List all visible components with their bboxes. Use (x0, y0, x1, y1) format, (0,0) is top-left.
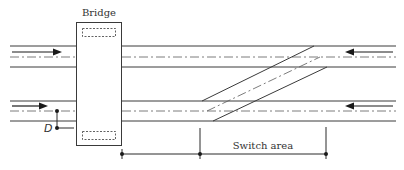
upper-arrow-right-icon (53, 49, 62, 56)
lower-track-right (122, 101, 396, 121)
bridge-box (77, 23, 122, 146)
dimension-dot-switch-start (198, 152, 202, 156)
d-marker: D (44, 109, 74, 135)
d-label: D (44, 122, 52, 135)
crossover-centerline (207, 57, 320, 111)
lower-track-left (10, 101, 76, 121)
upper-track-right (122, 46, 396, 67)
dimension-dot-switch-end (324, 152, 328, 156)
upper-track-left (10, 46, 76, 67)
d-marker-dot-bottom (55, 126, 59, 130)
switch-area-dimension: Switch area (120, 127, 328, 159)
track-diagram: Bridge D Switch area (0, 0, 404, 170)
upper-arrow-left-icon (345, 49, 354, 56)
lower-arrow-right-icon (39, 103, 48, 110)
d-marker-dot-top (55, 109, 59, 113)
switch-area-label: Switch area (233, 140, 294, 151)
crossover-rail-bottom (213, 67, 327, 121)
bridge: Bridge (77, 7, 122, 146)
dimension-dot-bridge (120, 152, 124, 156)
bridge-label: Bridge (82, 7, 116, 18)
lower-arrow-left-icon (345, 103, 354, 110)
crossover-rail-top (202, 46, 314, 101)
